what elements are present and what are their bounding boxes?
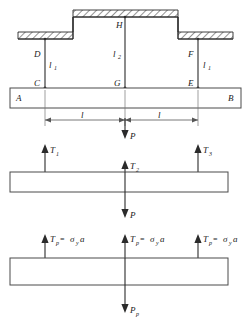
- force-arrow-T1: T 1: [41, 144, 59, 172]
- force-arrow-Tp-middle: T p = σ y a: [121, 234, 165, 258]
- label-force-Tp-right-equals: =: [213, 235, 218, 244]
- label-force-Tp-right-area: a: [233, 234, 238, 244]
- svg-text:1: 1: [54, 65, 57, 71]
- label-force-Tp-left-stress-sub: y: [75, 240, 79, 246]
- svg-text:2: 2: [118, 54, 121, 60]
- label-span-left: l: [81, 110, 84, 120]
- label-point-G: G: [114, 78, 121, 88]
- label-load-P-elastic-bottom: P: [129, 210, 136, 220]
- force-arrow-T2: T 2: [121, 160, 139, 173]
- label-force-Tp-left-equals: =: [60, 235, 65, 244]
- label-span-right: l: [158, 110, 161, 120]
- label-force-Tp-middle-sub: p: [135, 240, 139, 246]
- label-rod-length-left: l 1: [49, 60, 57, 71]
- force-arrow-Tp-right: T p = σ y a: [194, 234, 238, 258]
- label-point-H: H: [115, 20, 123, 30]
- label-force-T3-sub: 3: [208, 151, 212, 157]
- label-force-T1-sub: 1: [56, 151, 59, 157]
- force-arrow-T3: T 3: [194, 144, 212, 172]
- free-body-beam-plastic: [10, 258, 228, 285]
- label-point-C: C: [34, 78, 41, 88]
- free-body-beam-elastic: [10, 172, 228, 192]
- label-force-Tp-left-area: a: [80, 234, 85, 244]
- label-force-Tp-left-sub: p: [55, 240, 59, 246]
- label-point-D: D: [33, 49, 41, 59]
- svg-text:l: l: [49, 60, 52, 70]
- label-force-Tp-right-sub: p: [208, 240, 212, 246]
- label-rod-length-right: l 1: [203, 60, 211, 71]
- svg-text:l: l: [203, 60, 206, 70]
- svg-text:1: 1: [208, 65, 211, 71]
- label-point-A: A: [15, 93, 22, 103]
- label-force-Tp-middle-equals: =: [140, 235, 145, 244]
- force-arrow-Tp-left: T p = σ y a: [41, 234, 85, 258]
- label-force-Tp-left-stress: σ: [70, 234, 75, 244]
- label-force-Tp-middle-area: a: [160, 234, 165, 244]
- svg-text:l: l: [113, 49, 116, 59]
- label-load-Pp-symbol: P: [129, 305, 136, 315]
- dimension-span-left: l: [45, 110, 125, 122]
- label-rod-length-middle: l 2: [113, 49, 121, 60]
- label-load-P-top: P: [129, 131, 136, 141]
- label-force-Tp-right-stress-sub: y: [228, 240, 232, 246]
- label-point-F: F: [187, 49, 194, 59]
- label-force-Tp-middle-stress-sub: y: [155, 240, 159, 246]
- figure-canvas: D C F E G H A B l 1 l 2 l 1 l: [0, 0, 251, 330]
- label-force-Tp-middle-stress: σ: [150, 234, 155, 244]
- label-force-Tp-right-stress: σ: [223, 234, 228, 244]
- label-load-Pp-sub: p: [135, 311, 139, 317]
- label-point-B: B: [228, 93, 234, 103]
- figure-root: D C F E G H A B l 1 l 2 l 1 l: [0, 0, 251, 330]
- label-point-E: E: [187, 78, 194, 88]
- dimension-span-right: l: [125, 110, 198, 122]
